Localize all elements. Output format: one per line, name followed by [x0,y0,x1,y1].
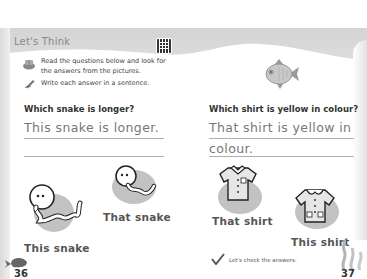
shirt-with-collar-icon [216,164,260,204]
blouse-with-pockets-icon [292,186,338,226]
section-title: Let's Think [14,36,70,47]
short-snake-caption: That snake [103,211,171,223]
fish-icon [263,58,301,90]
long-snake-icon [24,183,84,231]
left-answer-rule-2 [24,156,164,157]
left-question: Which snake is longer? [24,104,134,114]
seaweed-icon [338,238,366,270]
right-answer-line2[interactable]: colour. [209,141,253,156]
right-answer-line1[interactable]: That shirt is yellow in [209,120,351,135]
workbook-spread: Let's Think Read the questions below and… [0,0,367,279]
right-answer-rule-2 [209,156,354,157]
short-snake-icon [112,164,160,204]
right-page-number: 37 [341,268,355,279]
instruction-2: Write each answer in a sentence. [41,79,149,87]
right-page-edge [353,40,367,240]
left-answer-rule-1 [24,138,164,139]
right-question: Which shirt is yellow in colour? [209,104,358,114]
instruction-1-line1: Read the questions below and look for [41,57,166,65]
book-reading-icon [22,58,36,70]
left-answer-line1[interactable]: This snake is longer. [24,120,159,135]
right-answer-rule-1 [209,138,354,139]
left-page-edge [0,28,10,279]
top-margin [0,0,367,28]
qr-code-icon[interactable] [156,38,172,54]
long-snake-caption: This snake [24,242,90,254]
checkmark-icon [211,253,225,265]
shirt-1-caption: That shirt [212,215,273,227]
instruction-1-line2: the answers from the pictures. [41,67,141,75]
check-answers-link[interactable]: Let's check the answers. [229,257,297,263]
left-page-number: 36 [14,268,28,279]
pencil-writing-icon [24,77,36,89]
